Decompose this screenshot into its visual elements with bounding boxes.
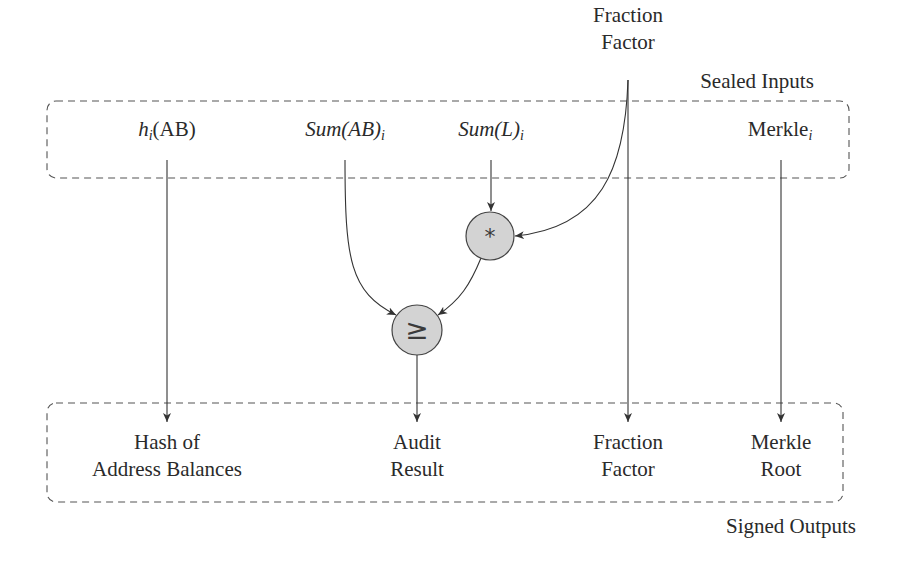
input-sum-l: Sum(L)i bbox=[426, 116, 556, 149]
input-sum-ab-sub: i bbox=[381, 128, 385, 143]
input-merkle-base: Merkle bbox=[748, 117, 809, 141]
input-sum-ab: Sum(AB)i bbox=[270, 116, 420, 149]
sealed-inputs-label: Sealed Inputs bbox=[682, 68, 832, 95]
input-hash-base: h bbox=[138, 117, 149, 141]
edge-sum-ab-to-compare bbox=[345, 160, 396, 315]
output-fraction-line2: Factor bbox=[568, 456, 688, 483]
input-sum-l-sub: i bbox=[520, 128, 524, 143]
output-merkle-line2: Root bbox=[731, 456, 831, 483]
output-fraction-line1: Fraction bbox=[568, 429, 688, 456]
output-audit-line2: Result bbox=[367, 456, 467, 483]
signed-outputs-label: Signed Outputs bbox=[706, 513, 876, 540]
multiply-symbol: * bbox=[475, 222, 505, 252]
input-merkle: Merklei bbox=[720, 116, 840, 149]
output-hash-line2: Address Balances bbox=[87, 456, 247, 483]
input-merkle-sub: i bbox=[808, 128, 812, 143]
input-hash: hi(AB) bbox=[107, 116, 227, 149]
fraction-factor-input-label: Fraction Factor bbox=[568, 2, 688, 56]
output-audit: Audit Result bbox=[367, 429, 467, 483]
output-fraction: Fraction Factor bbox=[568, 429, 688, 483]
output-hash: Hash of Address Balances bbox=[87, 429, 247, 483]
output-merkle-line1: Merkle bbox=[731, 429, 831, 456]
edge-multiply-to-compare bbox=[438, 258, 481, 315]
fraction-factor-line1: Fraction bbox=[568, 2, 688, 29]
fraction-factor-line2: Factor bbox=[568, 29, 688, 56]
compare-symbol: ≥ bbox=[400, 313, 434, 347]
edge-fraction-to-multiply bbox=[515, 80, 628, 236]
output-audit-line1: Audit bbox=[367, 429, 467, 456]
output-merkle: Merkle Root bbox=[731, 429, 831, 483]
input-sum-ab-base: Sum(AB) bbox=[305, 117, 381, 141]
input-sum-l-base: Sum(L) bbox=[458, 117, 520, 141]
input-hash-rest: (AB) bbox=[153, 117, 196, 141]
output-hash-line1: Hash of bbox=[87, 429, 247, 456]
